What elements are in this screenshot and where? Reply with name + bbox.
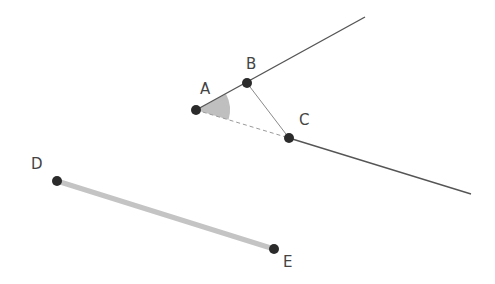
segment-de[interactable]: [57, 181, 274, 249]
ray-ac-extension[interactable]: [289, 138, 471, 194]
point-e[interactable]: [269, 244, 279, 254]
point-a[interactable]: [191, 105, 201, 115]
point-d[interactable]: [52, 176, 62, 186]
ray-ab[interactable]: [196, 17, 365, 110]
geometry-diagram: A B C D E: [0, 0, 495, 284]
segment-ac-dashed[interactable]: [196, 110, 289, 138]
label-e: E: [283, 253, 292, 271]
label-c: C: [299, 111, 309, 129]
label-a: A: [200, 80, 211, 98]
point-c[interactable]: [284, 133, 294, 143]
point-b[interactable]: [242, 78, 252, 88]
label-d: D: [31, 155, 43, 173]
label-b: B: [246, 55, 256, 73]
segment-bc[interactable]: [247, 83, 289, 138]
